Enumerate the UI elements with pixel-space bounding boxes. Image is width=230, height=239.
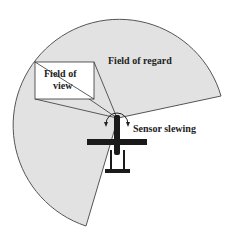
slew-arrow-right-icon [126,122,130,127]
field-of-view-label-line2: view [53,80,72,91]
sensor-slewing-label: Sensor slewing [133,123,196,134]
diagram-canvas [0,0,230,239]
field-of-regard-label: Field of regard [108,55,172,66]
field-of-view-label-line1: Field of [44,68,77,79]
